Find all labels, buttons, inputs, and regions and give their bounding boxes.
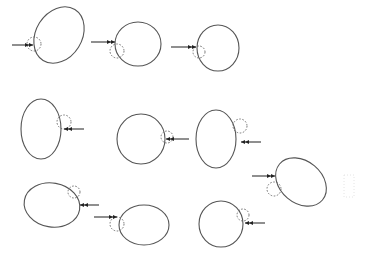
arrow-head-icon <box>192 45 196 49</box>
diagram-canvas <box>0 0 369 259</box>
cell-diagram-6 <box>196 110 261 168</box>
arrow-head-icon <box>80 203 84 207</box>
faint-smudge <box>344 175 354 197</box>
cell-outline <box>21 99 61 159</box>
faint-mark <box>344 175 354 197</box>
arrow-head-icon <box>29 43 33 47</box>
cell-outline <box>199 201 243 247</box>
cell-diagram-9 <box>94 205 169 245</box>
cell-group <box>12 0 336 247</box>
arrow-head-icon <box>249 221 253 225</box>
cell-outline <box>117 114 165 164</box>
cell-outline <box>21 178 84 231</box>
cell-outline <box>196 110 236 168</box>
cell-diagram-5 <box>117 114 189 164</box>
arrow-head-icon <box>84 203 88 207</box>
dotted-bud-outline <box>233 119 247 133</box>
arrow-head-icon <box>267 174 271 178</box>
cell-diagram-2 <box>91 22 161 66</box>
cell-diagram-8 <box>21 178 99 231</box>
cell-outline <box>115 22 161 66</box>
dotted-bud-outline <box>161 131 173 143</box>
arrow-head-icon <box>68 127 72 131</box>
cell-outline <box>119 205 169 245</box>
dotted-bud-outline <box>267 182 281 196</box>
dotted-bud-outline <box>68 186 80 198</box>
arrow-head-icon <box>109 215 113 219</box>
arrow-head-icon <box>245 221 249 225</box>
cell-diagram-7 <box>252 148 336 216</box>
arrow-head-icon <box>188 45 192 49</box>
cell-outline <box>24 0 95 73</box>
dotted-bud-outline <box>110 217 124 231</box>
cell-diagram-1 <box>12 0 94 73</box>
arrow-head-icon <box>271 174 275 178</box>
cell-diagram-4 <box>21 99 84 159</box>
arrow-head-icon <box>166 137 170 141</box>
arrow-head-icon <box>241 140 245 144</box>
arrow-head-icon <box>113 215 117 219</box>
arrow-head-icon <box>107 40 111 44</box>
arrow-head-icon <box>64 127 68 131</box>
dotted-bud-outline <box>110 44 124 58</box>
arrow-head-icon <box>245 140 249 144</box>
cell-diagram-10 <box>199 201 265 247</box>
dotted-bud-outline <box>193 46 205 58</box>
cell-diagram-3 <box>171 25 239 71</box>
arrow-head-icon <box>111 40 115 44</box>
